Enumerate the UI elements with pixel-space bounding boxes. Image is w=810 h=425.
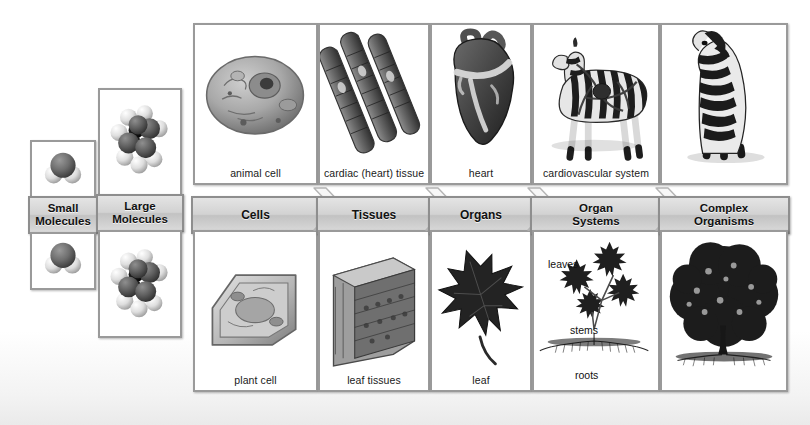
band-label-line1: Complex: [700, 202, 749, 214]
panel-small-molecules-bottom: [30, 232, 96, 290]
panel-complex-organisms-bottom: [660, 230, 788, 392]
band-label-cells: Cells: [241, 209, 270, 222]
leaf-cross-section-illustration-icon: [320, 232, 428, 390]
band-label-line2: Molecules: [112, 213, 168, 225]
panel-cells-bottom: plant cell: [193, 230, 318, 392]
band-cell-organ-systems: OrganSystems: [530, 196, 662, 234]
panel-cells-top: animal cell: [193, 23, 318, 185]
caption-tissues-top: cardiac (heart) tissue: [320, 167, 428, 179]
band-label-line2: Molecules: [35, 215, 91, 227]
column-small-molecules: SmallMolecules: [30, 140, 96, 290]
animal-cell-illustration-icon: [195, 25, 316, 183]
panel-organ-systems-top: cardiovascular system: [532, 23, 660, 185]
band-label-complex-organisms: ComplexOrganisms: [694, 202, 754, 228]
panel-organs-top: heart: [430, 23, 532, 185]
band-cell-large-molecules: LargeMolecules: [96, 194, 184, 232]
column-organs: heart Organs leaf: [430, 23, 532, 392]
band-label-large-molecules: LargeMolecules: [112, 200, 168, 226]
zebra-front-view-illustration-icon: [662, 25, 786, 183]
panel-tissues-top: cardiac (heart) tissue: [318, 23, 430, 185]
band-label-line2: Organisms: [694, 215, 754, 227]
column-tissues: cardiac (heart) tissue Tissues: [318, 23, 430, 392]
water-molecule-space-filling-model-icon: [32, 142, 94, 196]
inline-label-leaves: leaves: [548, 258, 578, 270]
macromolecule-space-filling-model-icon: [100, 232, 180, 336]
caption-cells-top: animal cell: [195, 167, 316, 179]
band-label-small-molecules: SmallMolecules: [35, 202, 91, 228]
cardiac-muscle-fibers-illustration-icon: [320, 25, 428, 183]
band-cell-organs: Organs: [428, 196, 534, 234]
human-heart-illustration-icon: [432, 25, 530, 183]
caption-organ-systems-top: cardiovascular system: [534, 167, 658, 179]
band-label-line1: Organ: [579, 202, 613, 214]
band-cell-cells: Cells: [191, 196, 320, 234]
column-organ-systems: cardiovascular system OrganSystems: [532, 23, 660, 392]
caption-cells-bottom: plant cell: [195, 374, 316, 386]
panel-tissues-bottom: leaf tissues: [318, 230, 430, 392]
band-cell-tissues: Tissues: [316, 196, 432, 234]
band-label-organs: Organs: [460, 209, 502, 222]
plant-shoot-and-root-system-illustration-icon: [534, 232, 658, 390]
band-label-organ-systems: OrganSystems: [572, 202, 619, 228]
band-label-line2: Systems: [572, 215, 619, 227]
panel-complex-organisms-top: [660, 23, 788, 185]
diagram-canvas: SmallMolecules: [0, 0, 810, 425]
tree-illustration-icon: [662, 232, 786, 390]
inline-label-roots: roots: [575, 369, 598, 381]
caption-tissues-bottom: leaf tissues: [320, 374, 428, 386]
band-label-tissues: Tissues: [352, 209, 396, 222]
maple-leaf-illustration-icon: [432, 232, 530, 390]
panel-organs-bottom: leaf: [430, 230, 532, 392]
panel-small-molecules-top: [30, 140, 96, 198]
band-label-line1: Small: [48, 202, 79, 214]
column-large-molecules: LargeMolecules: [98, 88, 182, 338]
panel-large-molecules-top: [98, 88, 182, 196]
water-molecule-space-filling-model-icon: [32, 234, 94, 288]
panel-large-molecules-bottom: [98, 230, 182, 338]
inline-label-stems: stems: [570, 324, 598, 336]
band-cell-complex-organisms: ComplexOrganisms: [658, 196, 790, 234]
macromolecule-space-filling-model-icon: [100, 90, 180, 194]
plant-cell-illustration-icon: [195, 232, 316, 390]
column-cells: animal cell Cells: [193, 23, 318, 392]
zebra-with-cardiovascular-system-illustration-icon: [534, 25, 658, 183]
band-cell-small-molecules: SmallMolecules: [28, 196, 98, 234]
band-label-line1: Large: [124, 200, 155, 212]
caption-organs-bottom: leaf: [432, 374, 530, 386]
panel-organ-systems-bottom: leaves stems roots: [532, 230, 660, 392]
caption-organs-top: heart: [432, 167, 530, 179]
column-complex-organisms: ComplexOrganisms: [660, 23, 788, 392]
